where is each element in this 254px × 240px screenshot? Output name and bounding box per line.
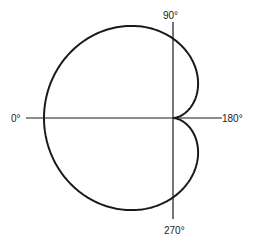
- label-0-degrees: 0°: [11, 113, 21, 124]
- label-90-degrees: 90°: [163, 10, 178, 21]
- label-270-degrees: 270°: [164, 225, 185, 236]
- polar-pattern-diagram: 90° 0° 180° 270°: [0, 0, 254, 240]
- label-180-degrees: 180°: [222, 113, 243, 124]
